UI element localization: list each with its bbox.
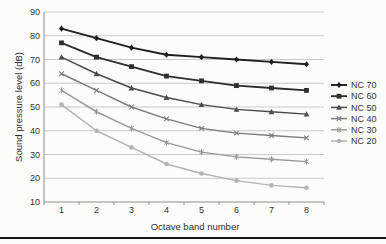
y-tick-label: 40 — [30, 126, 40, 136]
x-tick-label: 2 — [94, 205, 99, 215]
legend-label: NC 20 — [351, 136, 377, 146]
diamond-marker-icon — [59, 26, 64, 32]
circle-marker-icon — [94, 128, 99, 133]
x-tick-label: 3 — [129, 205, 134, 215]
square-marker-icon — [304, 88, 309, 93]
square-marker-icon — [199, 78, 204, 83]
y-tick-label: 90 — [30, 7, 40, 17]
x-tick-label: 6 — [234, 205, 239, 215]
asterisk-marker-icon — [59, 87, 63, 93]
circle-marker-icon — [199, 171, 204, 176]
x-tick-label: 4 — [164, 205, 169, 215]
diamond-marker-icon — [336, 82, 341, 88]
square-marker-icon — [94, 55, 99, 60]
legend-label: NC 60 — [351, 91, 377, 101]
y-tick-label: 10 — [30, 197, 40, 207]
y-axis-title: Sound pressure level (dB) — [13, 52, 24, 162]
x-tick-label: 8 — [304, 205, 309, 215]
circle-marker-icon — [337, 139, 342, 144]
x-tick-label: 5 — [199, 205, 204, 215]
square-marker-icon — [59, 40, 64, 45]
diamond-marker-icon — [164, 52, 169, 58]
legend-label: NC 50 — [351, 103, 377, 113]
legend-label: NC 70 — [351, 80, 377, 90]
circle-marker-icon — [129, 145, 134, 150]
square-marker-icon — [269, 86, 274, 91]
nc-curves-figure: 10203040506070809012345678NC 70NC 60NC 5… — [0, 0, 386, 244]
square-marker-icon — [234, 83, 239, 88]
square-marker-icon — [337, 94, 342, 99]
triangle-marker-icon — [59, 54, 65, 59]
x-axis-title: Octave band number — [151, 221, 240, 232]
square-marker-icon — [164, 74, 169, 79]
diamond-marker-icon — [304, 61, 309, 67]
circle-marker-icon — [304, 185, 309, 190]
legend-label: NC 30 — [351, 125, 377, 135]
circle-marker-icon — [164, 162, 169, 167]
series-line-nc-20 — [62, 105, 307, 188]
diamond-marker-icon — [129, 45, 134, 51]
circle-marker-icon — [234, 178, 239, 183]
circle-marker-icon — [269, 183, 274, 188]
nc-curves-chart: 10203040506070809012345678NC 70NC 60NC 5… — [0, 0, 386, 236]
legend-label: NC 40 — [351, 114, 377, 124]
y-tick-label: 70 — [30, 55, 40, 65]
y-tick-label: 60 — [30, 78, 40, 88]
diamond-marker-icon — [234, 56, 239, 62]
y-tick-label: 50 — [30, 102, 40, 112]
square-marker-icon — [129, 64, 134, 69]
page-bottom-rule — [0, 237, 386, 239]
x-tick-label: 7 — [269, 205, 274, 215]
y-tick-label: 20 — [30, 173, 40, 183]
y-tick-label: 30 — [30, 150, 40, 160]
x-tick-label: 1 — [59, 205, 64, 215]
circle-marker-icon — [59, 102, 64, 107]
y-tick-label: 80 — [30, 31, 40, 41]
